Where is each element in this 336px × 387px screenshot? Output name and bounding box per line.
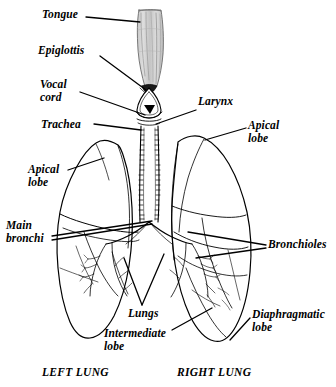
right-lung-outline	[172, 136, 251, 341]
leader-main-bronchi-1	[52, 221, 152, 236]
leader-trachea	[94, 124, 141, 130]
caption-left-lung: LEFT LUNG	[42, 366, 109, 378]
caption-right-lung: RIGHT LUNG	[177, 366, 251, 378]
leader-diaphragmatic	[230, 318, 250, 340]
label-trachea: Trachea	[41, 118, 81, 131]
label-epiglottis: Epiglottis	[38, 44, 84, 57]
label-larynx: Larynx	[198, 95, 233, 108]
label-main-bronchi: Main bronchi	[6, 219, 44, 244]
tongue-shape	[137, 10, 163, 88]
leader-vocal-cord	[80, 92, 145, 115]
label-apical-lobe-left: Apical lobe	[28, 163, 59, 188]
label-tongue: Tongue	[42, 8, 78, 21]
leader-tongue	[86, 17, 140, 22]
label-bronchioles: Bronchioles	[268, 238, 327, 251]
leader-apical-right	[205, 128, 246, 140]
label-lungs: Lungs	[128, 307, 159, 320]
label-apical-lobe-right: Apical lobe	[248, 119, 279, 144]
leader-lungs-1	[124, 258, 142, 305]
trachea-tube	[139, 126, 160, 222]
larynx-shape	[136, 88, 162, 125]
label-vocal-cord: Vocal cord	[40, 78, 67, 103]
leader-lungs-2	[142, 254, 164, 305]
respiratory-system-diagram: Tongue Epiglottis Vocal cord Trachea Lar…	[0, 0, 336, 387]
label-intermediate-lobe: Intermediate lobe	[104, 327, 166, 352]
leader-apical-left	[68, 158, 104, 170]
leader-intermediate	[172, 308, 212, 330]
label-diaphragmatic-lobe: Diaphragmatic lobe	[252, 308, 325, 333]
